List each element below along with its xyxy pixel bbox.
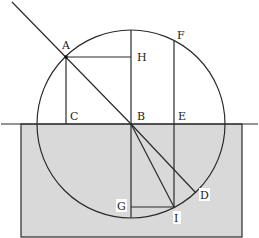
label-H: H <box>137 51 147 64</box>
label-I: I <box>174 212 178 225</box>
label-B: B <box>137 110 145 123</box>
incident-ray <box>12 2 131 124</box>
label-C: C <box>70 110 78 123</box>
label-G: G <box>117 200 126 213</box>
label-E: E <box>178 110 186 123</box>
label-A: A <box>61 39 71 52</box>
point-A-dot <box>64 55 68 59</box>
label-D: D <box>200 189 209 202</box>
label-F: F <box>177 29 185 42</box>
refraction-diagram: A H F C B E G I D <box>0 0 259 238</box>
